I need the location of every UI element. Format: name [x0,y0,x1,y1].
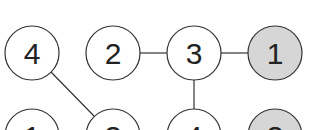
node-label: 2 [105,37,122,70]
edge-t1-b2 [51,72,94,116]
node-b1: 1 [5,109,59,130]
node-b2: 3 [86,109,140,130]
node-t1: 4 [5,26,59,80]
node-label: 1 [267,37,284,70]
node-b3: 4 [167,109,221,130]
node-label: 3 [186,37,203,70]
node-label: 3 [105,120,122,130]
node-b4-shaded: 3 [248,109,302,130]
node-label: 4 [186,120,203,130]
graph-diagram: 4 2 3 1 1 3 4 3 [0,0,310,130]
node-t2: 2 [86,26,140,80]
node-label: 3 [267,120,284,130]
node-t3: 3 [167,26,221,80]
node-label: 1 [24,120,41,130]
node-label: 4 [24,37,41,70]
node-t4-shaded: 1 [248,26,302,80]
